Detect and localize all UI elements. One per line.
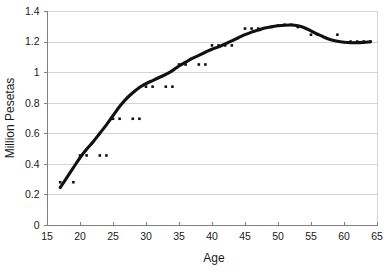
x-axis-tick-labels: 1520253035404550556065: [41, 230, 383, 242]
x-tick-label: 45: [239, 230, 251, 242]
x-axis-ticks: [48, 222, 378, 226]
data-point: [270, 26, 273, 29]
scatter-chart: 1520253035404550556065 00.20.40.60.811.2…: [0, 0, 386, 274]
data-point: [72, 181, 75, 184]
data-point: [336, 33, 339, 36]
plot-frame: [48, 12, 378, 226]
data-point: [204, 63, 207, 66]
data-point: [224, 44, 227, 47]
data-point: [283, 23, 286, 26]
data-point: [356, 40, 359, 43]
data-point: [184, 63, 187, 66]
data-point: [369, 40, 372, 43]
x-tick-label: 35: [173, 230, 185, 242]
data-point: [231, 44, 234, 47]
data-point: [277, 24, 280, 27]
data-point: [165, 85, 168, 88]
data-point: [349, 40, 352, 43]
x-tick-label: 65: [371, 230, 383, 242]
x-axis-title: Age: [203, 251, 225, 265]
data-point: [297, 26, 300, 29]
y-tick-label: 0.8: [25, 97, 40, 109]
x-tick-label: 50: [272, 230, 284, 242]
x-tick-label: 55: [305, 230, 317, 242]
data-point: [257, 27, 260, 30]
y-tick-label: 0: [34, 219, 40, 231]
y-axis-title: Million Pesetas: [3, 78, 17, 159]
y-tick-label: 1.4: [25, 5, 40, 17]
data-point: [99, 154, 102, 157]
data-point: [217, 44, 220, 47]
data-point: [244, 27, 247, 30]
data-point: [178, 63, 181, 66]
data-point: [290, 23, 293, 26]
x-tick-label: 30: [140, 230, 152, 242]
y-tick-label: 1: [34, 66, 40, 78]
y-tick-label: 1.2: [25, 35, 40, 47]
data-point: [105, 154, 108, 157]
y-axis-tick-labels: 00.20.40.60.811.21.4: [25, 5, 40, 231]
data-point: [250, 27, 253, 30]
data-point: [112, 117, 115, 120]
data-point: [138, 117, 141, 120]
x-tick-label: 60: [338, 230, 350, 242]
x-tick-label: 15: [41, 230, 53, 242]
y-axis-ticks: [44, 12, 48, 226]
data-point: [132, 117, 135, 120]
data-point: [198, 63, 201, 66]
data-point: [145, 85, 148, 88]
data-point: [118, 117, 121, 120]
data-point: [211, 44, 214, 47]
x-tick-label: 25: [107, 230, 119, 242]
data-point: [85, 154, 88, 157]
data-point: [59, 181, 62, 184]
data-point: [310, 33, 313, 36]
fit-curve-path: [60, 25, 370, 188]
x-tick-label: 40: [206, 230, 218, 242]
data-point: [151, 85, 154, 88]
x-tick-label: 20: [74, 230, 86, 242]
chart-container: 1520253035404550556065 00.20.40.60.811.2…: [0, 0, 386, 274]
data-point: [363, 40, 366, 43]
y-tick-label: 0.6: [25, 127, 40, 139]
data-point: [79, 154, 82, 157]
data-point: [171, 85, 174, 88]
data-point: [316, 33, 319, 36]
smoothed-fit-line: [60, 25, 370, 188]
y-tick-label: 0.2: [25, 188, 40, 200]
y-tick-label: 0.4: [25, 158, 40, 170]
